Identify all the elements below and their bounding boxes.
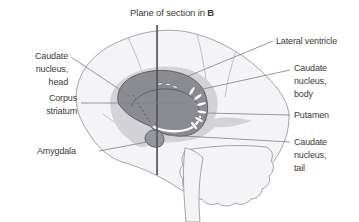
label-putamen: Putamen [294, 109, 329, 122]
label-amygdala: Amygdala [37, 145, 76, 158]
amygdala-shape [145, 130, 164, 147]
label-caudate-nucleus-body: Caudate nucleus, body [294, 62, 327, 101]
label-caudate-nucleus-tail: Caudate nucleus, tail [294, 136, 327, 175]
plane-of-section-label: Plane of section in B [110, 6, 234, 19]
figure-basal-ganglia-lateral-view: Plane of section in B Caudate nucleus, h… [0, 0, 359, 222]
plane-of-section-line [156, 25, 158, 175]
label-caudate-nucleus-head: Caudate nucleus, head [20, 50, 68, 89]
label-lateral-ventricle: Lateral ventricle [276, 35, 337, 48]
plane-of-section-text: Plane of section in [130, 7, 205, 18]
label-corpus-striatum: Corpus striatum [18, 92, 77, 118]
plane-of-section-bold-b: B [207, 7, 214, 18]
